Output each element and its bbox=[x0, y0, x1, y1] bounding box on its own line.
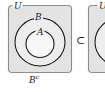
subset-relation-symbol: ⊂ bbox=[76, 35, 85, 46]
venn-figure: U B A Bc ⊂ U bbox=[0, 0, 105, 92]
universe-label-right: U bbox=[99, 2, 105, 11]
set-b-label: B bbox=[35, 13, 42, 22]
set-a-label: A bbox=[37, 28, 44, 37]
complement-caption: Bc bbox=[29, 76, 39, 85]
universe-label-left: U bbox=[14, 2, 22, 11]
complement-base: B bbox=[29, 75, 36, 85]
complement-exponent: c bbox=[36, 73, 39, 80]
venn-diagram-graphic bbox=[0, 0, 105, 92]
